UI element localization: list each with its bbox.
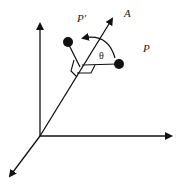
label-axis-a: A xyxy=(123,7,131,19)
rotation-axis-a xyxy=(40,19,112,136)
label-theta: θ xyxy=(99,50,104,61)
label-p: P xyxy=(142,42,150,54)
radius-to-p xyxy=(82,64,118,65)
label-p-prime: P′ xyxy=(76,12,87,24)
point-p xyxy=(114,59,124,69)
right-angle-marker-p-prime xyxy=(71,60,77,77)
z-axis xyxy=(10,136,40,176)
figure-caption xyxy=(0,178,183,186)
rotation-diagram: P′ A θ P xyxy=(0,0,183,186)
point-p-prime xyxy=(63,37,73,47)
